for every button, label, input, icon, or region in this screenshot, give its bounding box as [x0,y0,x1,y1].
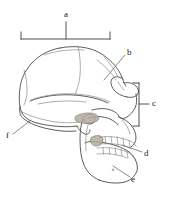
leader-line-e [113,166,130,177]
leader-line-f [13,120,31,134]
maxilla-detail [122,120,130,134]
label-e: e [131,175,135,184]
external-auditory-meatus-shading [75,113,99,123]
temporal-line [30,95,108,103]
lower-tooth-divider-3 [115,148,116,155]
label-b: b [127,48,132,57]
lower-tooth-divider-2 [109,148,110,155]
mandible-ramus-outline [80,119,99,180]
lower-tooth-divider-1 [103,148,104,154]
label-d: d [144,149,149,158]
skull-drawing-canvas [0,0,174,199]
orbit-outline [111,77,127,97]
tooth-divider-2 [111,136,112,144]
tooth-divider-3 [117,137,118,145]
mental-foramen [112,169,114,171]
temporal-fossa-line [38,101,86,104]
orbit-inner-detail [118,82,124,90]
label-c: c [152,99,156,108]
label-f: f [6,131,9,140]
lambdoid-suture [24,70,27,105]
bracket-a [21,22,110,39]
mastoid-process [77,126,90,134]
occipital-outline [20,107,77,127]
label-a: a [64,10,68,19]
skull-diagram-figure: a b c d e f [0,0,174,199]
lower-teeth-row-base [97,154,127,158]
bracket-c [133,83,149,126]
coronal-suture [75,46,80,95]
nasal-aperture-outline [119,94,137,119]
mandible-detail-ramus [86,125,88,151]
